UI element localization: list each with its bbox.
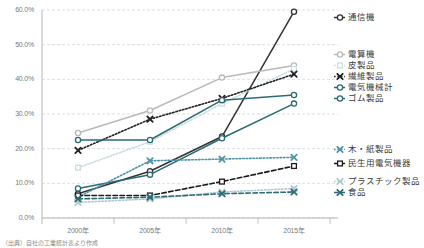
data-point-marker — [337, 15, 342, 20]
y-axis-tick-label: 20.0% — [0, 145, 34, 152]
source-note: （出典）自社の工業統計表より作成 — [2, 238, 98, 247]
y-axis-tick-label: 0.0% — [0, 214, 34, 221]
legend-label: 民生用電気機器 — [348, 158, 411, 169]
data-point-marker — [76, 165, 81, 170]
series-ゴム製品 — [75, 101, 296, 191]
legend-item-繊維製品[interactable]: 繊維製品 — [348, 71, 384, 82]
series-通信機 — [75, 9, 296, 196]
series-line — [78, 157, 294, 197]
data-point-marker — [292, 164, 297, 169]
y-axis-tick-label: 30.0% — [0, 110, 34, 117]
legend-item-ゴム製品[interactable]: ゴム製品 — [348, 93, 384, 104]
series-line — [78, 12, 294, 194]
legend-item-食品[interactable]: 食品 — [348, 187, 366, 198]
data-point-marker — [338, 63, 343, 68]
series-line — [78, 69, 294, 168]
legend-label: 食品 — [348, 187, 366, 198]
series-繊維製品 — [75, 71, 296, 153]
data-point-marker — [75, 130, 80, 135]
line-chart: 0.0%10.0%20.0%30.0%40.0%50.0%60.0% 2000年… — [0, 0, 424, 248]
series-line — [78, 104, 294, 189]
data-point-marker — [219, 136, 224, 141]
y-axis-tick-label: 10.0% — [0, 179, 34, 186]
series-line — [78, 95, 294, 140]
legend-label: 電算機 — [348, 49, 375, 60]
data-point-marker — [338, 161, 343, 166]
data-point-marker — [291, 101, 296, 106]
data-point-marker — [75, 137, 80, 142]
data-point-marker — [220, 179, 225, 184]
x-axis-tick-label: 2005年 — [127, 225, 173, 235]
legend-item-皮製品[interactable]: 皮製品 — [348, 60, 375, 71]
legend-item-民生用電気機器[interactable]: 民生用電気機器 — [348, 158, 411, 169]
data-point-marker — [75, 186, 80, 191]
data-point-marker — [292, 67, 297, 72]
legend-label: 木・紙製品 — [348, 144, 393, 155]
series-line — [78, 74, 294, 150]
x-axis-tick-label: 2010年 — [199, 225, 245, 235]
data-point-marker — [337, 96, 342, 101]
data-point-marker — [147, 108, 152, 113]
legend-item-木・紙製品[interactable]: 木・紙製品 — [348, 144, 393, 155]
series-電算機 — [75, 63, 296, 136]
data-point-marker — [219, 98, 224, 103]
legend-label: 繊維製品 — [348, 71, 384, 82]
legend-label: プラスチック製品 — [348, 176, 420, 187]
y-axis-tick-label: 40.0% — [0, 75, 34, 82]
legend-label: ゴム製品 — [348, 93, 384, 104]
legend-item-電気機械計[interactable]: 電気機械計 — [348, 82, 393, 93]
y-axis-tick-label: 50.0% — [0, 41, 34, 48]
data-point-marker — [337, 52, 342, 57]
data-point-marker — [291, 9, 296, 14]
chart-canvas — [0, 0, 424, 248]
data-point-marker — [219, 75, 224, 80]
series-電気機械計 — [75, 92, 296, 142]
data-point-marker — [337, 85, 342, 90]
legend-item-プラスチック製品[interactable]: プラスチック製品 — [348, 176, 420, 187]
x-axis-tick-label: 2015年 — [271, 225, 317, 235]
legend-item-電算機[interactable]: 電算機 — [348, 49, 375, 60]
y-axis-tick-label: 60.0% — [0, 6, 34, 13]
data-point-marker — [291, 92, 296, 97]
data-point-marker — [147, 137, 152, 142]
data-point-marker — [147, 172, 152, 177]
legend-label: 皮製品 — [348, 60, 375, 71]
legend-item-通信機[interactable]: 通信機 — [348, 12, 375, 23]
x-axis-tick-label: 2000年 — [55, 225, 101, 235]
legend-label: 電気機械計 — [348, 82, 393, 93]
legend-label: 通信機 — [348, 12, 375, 23]
